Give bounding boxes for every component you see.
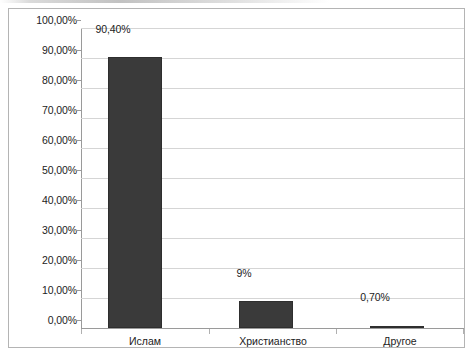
y-axis-tick-label: 20,00% — [13, 254, 77, 266]
gridline-0-baseline — [81, 328, 464, 329]
y-axis-labels: 100,00% 90,00% 80,00% 70,00% 60,00% 50,0… — [9, 9, 77, 349]
chart-frame: 100,00% 90,00% 80,00% 70,00% 60,00% 50,0… — [8, 8, 465, 348]
bar-value-label-islam: 90,40% — [81, 23, 145, 35]
chart-screenshot: 100,00% 90,00% 80,00% 70,00% 60,00% 50,0… — [0, 0, 472, 356]
y-axis-tick-label: 100,00% — [13, 14, 77, 26]
y-axis-tick-label: 40,00% — [13, 194, 77, 206]
y-axis-tick-label: 0,00% — [13, 314, 77, 326]
y-axis-tick-label: 10,00% — [13, 284, 77, 296]
x-axis-tick-mark — [463, 329, 464, 334]
y-axis-tick-label: 60,00% — [13, 134, 77, 146]
x-axis-category-label-other: Другое — [336, 335, 464, 347]
bar-other[interactable] — [370, 326, 424, 328]
y-axis-tick-label: 80,00% — [13, 74, 77, 86]
x-axis-category-label-christianity: Христианство — [209, 335, 337, 347]
bar-christianity[interactable] — [239, 301, 293, 328]
bar-islam[interactable] — [108, 57, 162, 328]
x-axis-tick-mark — [81, 329, 82, 334]
y-axis-tick-label: 90,00% — [13, 44, 77, 56]
x-axis-tick-mark — [209, 329, 210, 334]
plot-area — [81, 28, 464, 328]
y-axis-tick-label: 50,00% — [13, 164, 77, 176]
y-axis-tick-label: 30,00% — [13, 224, 77, 236]
y-axis-tick-label: 70,00% — [13, 104, 77, 116]
x-axis-tick-mark — [336, 329, 337, 334]
y-axis-tick-mark — [76, 20, 81, 21]
x-axis-category-label-islam: Ислам — [81, 335, 209, 347]
bar-value-label-other: 0,70% — [343, 291, 407, 303]
bar-value-label-christianity: 9% — [212, 267, 276, 279]
scan-artifact — [0, 0, 472, 3]
